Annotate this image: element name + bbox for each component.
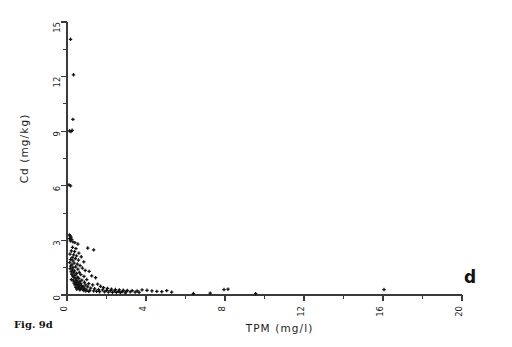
data-point [69, 38, 72, 41]
data-point [70, 249, 73, 252]
data-point [71, 246, 74, 249]
data-point [96, 282, 99, 285]
data-point [72, 73, 75, 76]
data-point [140, 288, 143, 291]
y-tick-label: 6 [52, 186, 62, 191]
figure-scatter-plot: 04812162003691215TPM (mg/l)Cd (mg/kg)dFi… [0, 0, 512, 347]
data-point [87, 270, 90, 273]
x-tick-label: 4 [138, 306, 148, 311]
data-point [87, 282, 90, 285]
data-point [77, 251, 80, 254]
data-point [150, 289, 153, 292]
panel-letter: d [464, 267, 476, 287]
data-point [68, 261, 71, 264]
y-tick-label: 12 [52, 77, 62, 88]
x-tick-label: 16 [375, 306, 385, 317]
y-axis-title: Cd (mg/kg) [18, 114, 30, 184]
data-point [86, 285, 89, 288]
data-point [82, 260, 85, 263]
figure-caption: Fig. 9d [14, 319, 53, 330]
x-tick-label: 8 [217, 306, 227, 311]
data-point [208, 291, 211, 294]
plot-canvas: 04812162003691215TPM (mg/l)Cd (mg/kg)dFi… [0, 0, 512, 347]
data-point [85, 278, 88, 281]
x-tick-label: 0 [59, 306, 69, 311]
data-point [76, 242, 79, 245]
data-point [170, 290, 173, 293]
data-point [145, 289, 148, 292]
y-tick-label: 9 [52, 131, 62, 136]
data-point [95, 290, 98, 293]
y-tick-label: 3 [52, 240, 62, 245]
x-tick-label: 12 [296, 306, 306, 317]
data-point [155, 290, 158, 293]
data-point [86, 246, 89, 249]
data-point [76, 267, 79, 270]
data-point [90, 274, 93, 277]
x-axis-title: TPM (mg/l) [245, 322, 314, 334]
y-tick-label: 15 [52, 22, 62, 33]
data-point [82, 275, 85, 278]
data-point [165, 289, 168, 292]
data-point [81, 266, 84, 269]
data-point [92, 248, 95, 251]
data-point [222, 288, 225, 291]
data-point [91, 283, 94, 286]
data-point [83, 269, 86, 272]
data-point [77, 258, 80, 261]
data-point [73, 250, 76, 253]
data-point [226, 287, 229, 290]
data-point [382, 288, 385, 291]
data-point [68, 252, 71, 255]
data-point [80, 255, 83, 258]
data-point [160, 290, 163, 293]
data-point [74, 247, 77, 250]
y-tick-label: 0 [52, 295, 62, 300]
data-point [71, 118, 74, 121]
data-point [99, 285, 102, 288]
data-point [94, 276, 97, 279]
x-tick-label: 20 [454, 306, 464, 317]
